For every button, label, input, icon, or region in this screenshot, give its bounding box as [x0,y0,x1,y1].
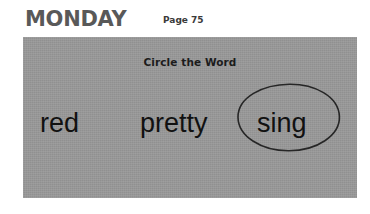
activity-panel: Circle the Word red pretty sing [23,37,357,198]
page-title: MONDAY [25,7,126,31]
worksheet-header: MONDAY Page 75 [0,0,370,37]
word-option-sing[interactable]: sing [257,105,307,141]
instruction-heading: Circle the Word [23,55,357,69]
word-option-pretty[interactable]: pretty [140,105,208,141]
word-option-red[interactable]: red [40,105,79,141]
word-choice-row: red pretty sing [23,105,357,155]
page-number-label: Page 75 [163,14,204,26]
